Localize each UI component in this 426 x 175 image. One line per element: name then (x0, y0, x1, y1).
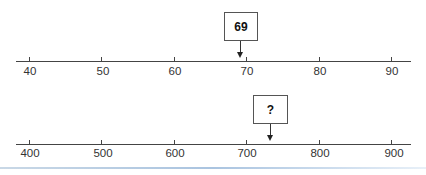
tick-400 (29, 140, 30, 145)
tick-label: 60 (169, 65, 182, 77)
tick-label: 800 (310, 147, 329, 159)
tick-label: 90 (386, 65, 399, 77)
tick-label: 400 (20, 147, 39, 159)
arrow-down-icon (267, 135, 273, 141)
tick-label: 50 (97, 65, 110, 77)
tick-label: 70 (241, 65, 254, 77)
tick-label: 600 (165, 147, 184, 159)
tick-800 (319, 140, 320, 145)
unknown-value-box: ? (253, 95, 288, 124)
tick-500 (101, 140, 102, 145)
tick-label: 80 (314, 65, 327, 77)
tick-80 (319, 57, 320, 62)
tick-label: 900 (384, 147, 403, 159)
tick-40 (29, 57, 30, 62)
tick-label: 40 (24, 65, 37, 77)
arrow-down-icon (237, 52, 243, 58)
tick-600 (174, 140, 175, 145)
tick-700 (246, 140, 247, 145)
tick-900 (391, 140, 392, 145)
tick-50 (101, 57, 102, 62)
bottom-divider (0, 167, 426, 169)
tick-60 (174, 57, 175, 62)
value-box: 69 (224, 12, 258, 41)
axis-line-2 (16, 144, 411, 145)
tick-label: 500 (93, 147, 112, 159)
axis-line-1 (16, 61, 411, 62)
tick-70 (246, 57, 247, 62)
tick-label: 700 (237, 147, 256, 159)
tick-90 (391, 57, 392, 62)
